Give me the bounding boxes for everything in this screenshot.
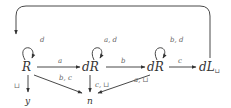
node-n: n <box>87 96 93 106</box>
loop-dR2 <box>155 48 165 60</box>
state-diagram: R dR dR dL⊔ y n d a, d b, d a b c ⊔ b, c… <box>0 0 231 108</box>
node-dR2: dR <box>147 60 164 74</box>
label-R-dR1: a <box>58 57 62 65</box>
edge-R-to-n <box>34 75 82 93</box>
node-R: R <box>21 60 31 74</box>
loop-dR1 <box>92 48 102 60</box>
loop-R <box>23 48 33 60</box>
node-y: y <box>24 96 31 106</box>
label-loop-dR1: a, d <box>104 36 118 44</box>
node-dL: dL⊔ <box>199 60 220 74</box>
label-dR1-n: c, ⊔ <box>95 81 109 89</box>
label-dR1-dR2: b <box>121 57 126 65</box>
node-dR1: dR <box>82 60 99 74</box>
label-R-y: ⊔ <box>14 82 20 90</box>
label-dR2-dL: c <box>178 57 182 65</box>
edge-dL-to-R <box>16 6 210 58</box>
label-R-n: b, c <box>59 74 72 82</box>
label-loop-R: d <box>40 36 45 44</box>
label-loop-dR2: b, d <box>170 36 184 44</box>
label-dR2-n: a, ⊔ <box>134 76 149 84</box>
